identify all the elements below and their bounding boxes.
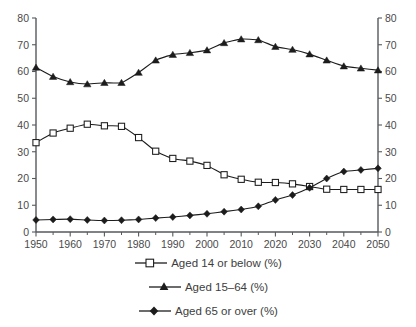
- data-point-triangle: [323, 57, 330, 63]
- data-point-triangle: [203, 47, 210, 53]
- data-point-diamond: [33, 216, 40, 223]
- x-axis-label: 1970: [93, 238, 117, 250]
- x-axis-label: 2010: [230, 238, 254, 250]
- legend-label-aged-14-or-below: Aged 14 or below (%): [171, 256, 282, 270]
- data-point-diamond: [375, 165, 382, 172]
- data-point-open-square: [118, 123, 124, 129]
- series-3: [33, 165, 382, 224]
- data-point-diamond: [204, 210, 211, 217]
- data-point-open-square: [33, 140, 39, 146]
- data-point-open-square: [204, 162, 210, 168]
- data-point-open-square: [136, 134, 142, 140]
- data-point-open-square: [255, 179, 261, 185]
- y-axis-label-right: 60: [385, 65, 397, 77]
- data-point-diamond: [255, 203, 262, 210]
- data-point-open-square: [67, 125, 73, 131]
- data-point-triangle: [49, 73, 56, 79]
- data-point-open-square: [358, 186, 364, 192]
- y-axis-label-right: 40: [385, 119, 397, 131]
- chart-legend: Aged 14 or below (%) Aged 15–64 (%) Aged…: [0, 252, 416, 322]
- data-point-diamond: [221, 208, 228, 215]
- legend-label-aged-15-64: Aged 15–64 (%): [185, 280, 268, 294]
- data-point-triangle: [32, 64, 39, 70]
- y-axis-label-left: 20: [17, 172, 29, 184]
- data-point-diamond: [50, 216, 57, 223]
- legend-item-aged-14-or-below: Aged 14 or below (%): [134, 252, 282, 274]
- data-point-open-square: [170, 155, 176, 161]
- data-point-diamond: [101, 217, 108, 224]
- y-axis-label-right: 30: [385, 146, 397, 158]
- data-series: [32, 36, 381, 224]
- data-point-diamond: [323, 175, 330, 182]
- x-axis-label: 2000: [195, 238, 219, 250]
- x-axis-label: 2050: [366, 238, 390, 250]
- data-point-diamond: [289, 192, 296, 199]
- data-point-open-square: [272, 179, 278, 185]
- legend-item-aged-15-64: Aged 15–64 (%): [148, 276, 268, 298]
- y-axis-label-right: 0: [385, 226, 391, 238]
- data-point-diamond: [341, 168, 348, 175]
- data-point-triangle: [118, 79, 125, 85]
- data-point-diamond: [135, 216, 142, 223]
- data-point-open-square: [341, 186, 347, 192]
- x-axis-label: 2030: [298, 238, 322, 250]
- data-point-diamond: [170, 214, 177, 221]
- y-axis-label-left: 40: [17, 119, 29, 131]
- y-axis-label-left: 0: [23, 226, 29, 238]
- data-point-diamond: [84, 216, 91, 223]
- y-axis-label-right: 70: [385, 39, 397, 51]
- y-axis-label-right: 50: [385, 92, 397, 104]
- y-axis-label-right: 80: [385, 12, 397, 24]
- data-point-triangle: [272, 43, 279, 49]
- legend-key-filled-diamond: [138, 304, 172, 318]
- data-point-open-square: [153, 148, 159, 154]
- x-axis-label: 1980: [127, 238, 151, 250]
- data-point-diamond: [272, 196, 279, 203]
- plot-area: 0010102020303040405050606070708080195019…: [0, 0, 416, 250]
- y-axis-label-left: 30: [17, 146, 29, 158]
- x-axis-label: 2040: [332, 238, 356, 250]
- y-axis-label-left: 70: [17, 39, 29, 51]
- y-axis-label-right: 10: [385, 199, 397, 211]
- data-point-diamond: [187, 212, 194, 219]
- data-point-open-square: [50, 130, 56, 136]
- data-point-diamond: [118, 217, 125, 224]
- data-point-diamond: [152, 215, 159, 222]
- data-point-open-square: [187, 158, 193, 164]
- legend-label-aged-65-or-over: Aged 65 or over (%): [175, 304, 278, 318]
- data-point-triangle: [152, 57, 159, 63]
- data-point-open-square: [289, 181, 295, 187]
- series-1: [33, 121, 381, 192]
- x-axis-label: 1950: [24, 238, 48, 250]
- data-point-diamond: [67, 216, 74, 223]
- data-point-open-square: [324, 186, 330, 192]
- y-axis-label-left: 60: [17, 65, 29, 77]
- x-axis-label: 2020: [264, 238, 288, 250]
- y-axis-label-left: 10: [17, 199, 29, 211]
- data-point-open-square: [101, 123, 107, 129]
- legend-key-open-square: [134, 256, 168, 270]
- y-axis-label-left: 80: [17, 12, 29, 24]
- line-chart-svg: 0010102020303040405050606070708080195019…: [0, 0, 416, 250]
- data-point-open-square: [375, 186, 381, 192]
- y-axis-label-right: 20: [385, 172, 397, 184]
- data-point-open-square: [221, 172, 227, 178]
- chart-container: 0010102020303040405050606070708080195019…: [0, 0, 416, 327]
- legend-key-filled-triangle: [148, 280, 182, 294]
- data-point-open-square: [84, 121, 90, 127]
- data-point-diamond: [238, 206, 245, 213]
- x-axis-label: 1960: [59, 238, 83, 250]
- data-point-diamond: [358, 166, 365, 173]
- legend-item-aged-65-or-over: Aged 65 or over (%): [138, 300, 278, 322]
- x-axis-label: 1990: [161, 238, 185, 250]
- y-axis-label-left: 50: [17, 92, 29, 104]
- data-point-open-square: [238, 176, 244, 182]
- series-2: [32, 36, 381, 87]
